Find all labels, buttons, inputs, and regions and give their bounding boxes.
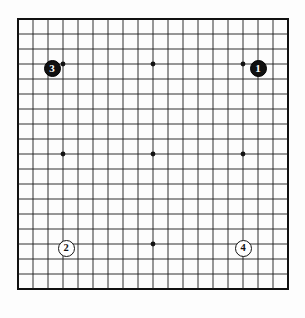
stone-black-1[interactable]: 1 <box>250 60 267 77</box>
stone-move-number: 4 <box>240 242 245 253</box>
stone-white-4[interactable]: 4 <box>235 240 252 257</box>
star-point <box>241 62 246 67</box>
stone-move-number: 3 <box>49 62 55 73</box>
stone-move-number: 2 <box>63 242 68 253</box>
star-point <box>151 152 156 157</box>
stone-move-number: 1 <box>255 62 261 73</box>
star-point <box>241 152 246 157</box>
stone-black-3[interactable]: 3 <box>44 60 61 77</box>
go-board-diagram: 1234 <box>0 0 305 318</box>
star-point <box>61 62 66 67</box>
star-point <box>151 62 156 67</box>
stone-white-2[interactable]: 2 <box>58 240 75 257</box>
star-point <box>151 242 156 247</box>
star-point <box>61 152 66 157</box>
